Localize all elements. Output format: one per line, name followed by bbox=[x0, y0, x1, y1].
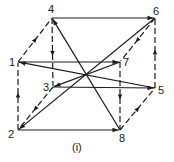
edge-7-to-3 bbox=[54, 62, 120, 87]
arrowhead-icon bbox=[32, 38, 37, 43]
arrowhead-icon bbox=[153, 50, 157, 55]
vertex-label-5: 5 bbox=[158, 84, 164, 96]
vertex-label-3: 3 bbox=[43, 81, 49, 93]
arrowhead-icon bbox=[34, 105, 39, 110]
arrowhead-icon bbox=[118, 94, 122, 99]
vertex-label-4: 4 bbox=[48, 3, 54, 15]
figure-caption: (i) bbox=[72, 141, 82, 153]
arrowhead-icon bbox=[113, 128, 119, 133]
vertex-label-6: 6 bbox=[153, 5, 159, 17]
directed-cube-graph: 12345678 (i) bbox=[0, 0, 174, 162]
vertex-label-2: 2 bbox=[8, 128, 14, 140]
arrowhead-icon bbox=[54, 82, 60, 86]
arrowhead-icon bbox=[136, 37, 141, 42]
arrowhead-icon bbox=[16, 93, 20, 98]
vertex-label-7: 7 bbox=[123, 56, 129, 68]
arrowhead-icon bbox=[147, 86, 153, 91]
edge-5-to-1 bbox=[19, 62, 155, 88]
arrowhead-icon bbox=[50, 51, 54, 56]
arrowhead-icon bbox=[53, 19, 58, 25]
vertex-label-1: 1 bbox=[9, 56, 15, 68]
edges-group bbox=[18, 18, 155, 130]
edge-3-to-5 bbox=[53, 87, 154, 88]
vertex-label-8: 8 bbox=[119, 132, 125, 144]
